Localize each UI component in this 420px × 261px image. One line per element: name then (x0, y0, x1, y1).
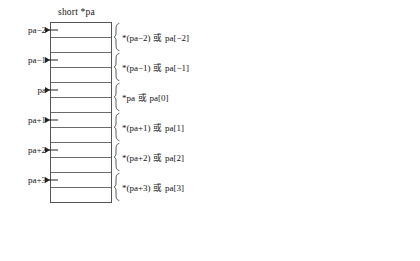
annotation-conjunction: 或 (151, 153, 165, 163)
memory-cell (51, 98, 111, 113)
pointer-arrow-icon (45, 87, 50, 93)
group-brace-icon (113, 82, 120, 112)
dereference-annotation-6: *(pa+3) 或 pa[3] (122, 181, 184, 193)
dereference-annotation-4: *(pa+1) 或 pa[1] (122, 121, 184, 133)
pointer-arrow-icon (45, 27, 50, 33)
group-brace-icon (113, 52, 120, 82)
group-brace-icon (113, 172, 120, 202)
panel-short-pointer: short *pa pa−2*(pa−2) 或 pa[−2]pa−1*(pa−1… (0, 0, 210, 261)
annotation-dereference-form: *(pa−1) (122, 63, 151, 73)
memory-cell (51, 188, 111, 203)
annotation-index-form: pa[2] (165, 153, 184, 163)
dereference-annotation-1: *(pa−2) 或 pa[−2] (122, 31, 189, 43)
annotation-conjunction: 或 (151, 183, 165, 193)
pointer-label-5: pa+2 (0, 145, 46, 155)
pointer-arrow-icon (45, 147, 50, 153)
annotation-index-form: pa[−2] (165, 33, 189, 43)
memory-cell (51, 113, 111, 128)
pointer-arrow-icon (45, 117, 50, 123)
panel-long-pointer: long *pb pb−1*(pb−1) 或 pb[−1]pb*pb 或 pb[… (210, 0, 420, 261)
annotation-index-form: pa[3] (165, 183, 184, 193)
pointer-arrow-icon (45, 177, 50, 183)
group-brace-icon (113, 142, 120, 172)
annotation-dereference-form: *(pa+3) (122, 183, 151, 193)
annotation-index-form: pa[0] (149, 93, 168, 103)
memory-cell (51, 158, 111, 173)
annotation-dereference-form: *(pa+2) (122, 153, 151, 163)
annotation-dereference-form: *(pa+1) (122, 123, 151, 133)
memory-cell (51, 23, 111, 38)
memory-table-short (50, 22, 112, 203)
annotation-conjunction: 或 (135, 93, 149, 103)
dereference-annotation-2: *(pa−1) 或 pa[−1] (122, 61, 189, 73)
annotation-dereference-form: *(pa−2) (122, 33, 151, 43)
pointer-label-2: pa−1 (0, 55, 46, 65)
pointer-arithmetic-diagram: short *pa pa−2*(pa−2) 或 pa[−2]pa−1*(pa−1… (0, 0, 420, 261)
pointer-label-4: pa+1 (0, 115, 46, 125)
memory-cell (51, 53, 111, 68)
pointer-label-1: pa−2 (0, 25, 46, 35)
pointer-label-3: pa (0, 85, 46, 95)
memory-cell (51, 173, 111, 188)
memory-cell (51, 68, 111, 83)
memory-cell (51, 143, 111, 158)
pointer-arrow-icon (45, 57, 50, 63)
annotation-conjunction: 或 (151, 33, 165, 43)
group-brace-icon (113, 22, 120, 52)
panel-title-short: short *pa (58, 7, 95, 17)
dereference-annotation-3: *pa 或 pa[0] (122, 91, 168, 103)
annotation-index-form: pa[−1] (165, 63, 189, 73)
memory-cell (51, 128, 111, 143)
annotation-conjunction: 或 (151, 63, 165, 73)
memory-cell (51, 83, 111, 98)
dereference-annotation-5: *(pa+2) 或 pa[2] (122, 151, 184, 163)
annotation-conjunction: 或 (151, 123, 165, 133)
pointer-label-6: pa+3 (0, 175, 46, 185)
annotation-index-form: pa[1] (165, 123, 184, 133)
group-brace-icon (113, 112, 120, 142)
annotation-dereference-form: *pa (122, 93, 135, 103)
memory-cell (51, 38, 111, 53)
